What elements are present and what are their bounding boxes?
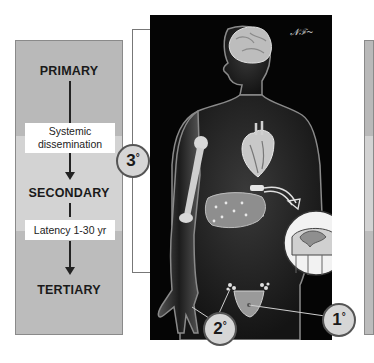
degree-symbol: ° <box>223 320 227 331</box>
badge-number: 2 <box>213 319 222 338</box>
connector-line <box>69 81 71 123</box>
badge-number: 3 <box>126 151 135 170</box>
degree-symbol: ° <box>136 152 140 163</box>
note-line-2: dissemination <box>25 138 115 151</box>
brain-organ <box>229 27 271 63</box>
adjacent-band-2 <box>365 136 373 232</box>
note-systemic-dissemination: Systemic dissemination <box>25 123 115 153</box>
arrow-down-icon <box>65 172 75 180</box>
adjacent-band-1 <box>365 41 373 137</box>
badge-secondary: 2° <box>203 312 237 346</box>
note-line-1: Systemic <box>25 125 115 138</box>
adjacent-figure-box <box>364 40 374 335</box>
stage-label-secondary: SECONDARY <box>16 186 122 200</box>
degree-symbol: ° <box>342 311 346 322</box>
connector-line <box>69 241 71 268</box>
artist-signature: 𝓝ℱ~ <box>290 27 314 37</box>
badge-primary: 1° <box>322 303 356 337</box>
stage-label-primary: PRIMARY <box>16 64 122 78</box>
stage-label-tertiary: TERTIARY <box>16 283 122 297</box>
badge-number: 1 <box>332 310 341 329</box>
stage-flow-box: PRIMARY Systemic dissemination SECONDARY… <box>15 40 123 335</box>
badge-tertiary: 3° <box>116 144 150 178</box>
body-illustration-panel: 𝓝ℱ~ <box>150 15 332 340</box>
connector-line <box>69 203 71 217</box>
connector-line <box>69 153 71 173</box>
adjacent-band-3 <box>365 231 373 335</box>
human-figure-illustration: 𝓝ℱ~ <box>150 15 332 340</box>
liver-organ <box>205 193 265 228</box>
arrow-down-icon <box>65 267 75 275</box>
note-latency: Latency 1-30 yr <box>25 220 115 240</box>
